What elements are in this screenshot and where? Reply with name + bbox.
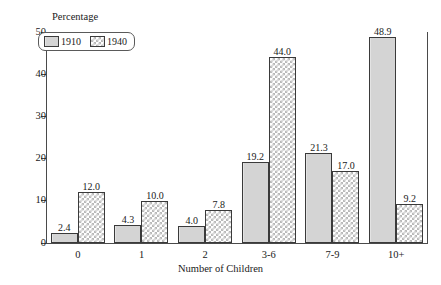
y-axis-tick: 40 — [0, 74, 46, 75]
y-axis-tick-label: 20 — [10, 153, 46, 163]
x-axis-label-10+: 10+ — [388, 249, 404, 260]
bar-value-label: 2.4 — [58, 223, 71, 233]
bar-group: 4.310.0 — [110, 32, 174, 243]
x-axis-label-1: 1 — [139, 249, 144, 260]
bar-chart-figure: Percentage 01020304050 1910 1940 2.412.0… — [0, 0, 441, 285]
bar-value-label: 17.0 — [337, 161, 355, 171]
x-axis-label-7-9: 7-9 — [326, 249, 340, 260]
bar-1940-10+: 9.2 — [396, 204, 423, 243]
bar-1940-0: 12.0 — [78, 192, 105, 243]
bar-value-label: 4.0 — [185, 216, 198, 226]
y-axis-tick: 30 — [0, 116, 46, 117]
bar-value-label: 21.3 — [310, 143, 328, 153]
bar-1940-2: 7.8 — [205, 210, 232, 243]
bar-value-label: 12.0 — [83, 182, 101, 192]
y-axis-tick-label: 10 — [10, 195, 46, 205]
bar-value-label: 9.2 — [403, 194, 416, 204]
bar-value-label: 44.0 — [274, 47, 292, 57]
bar-1910-3-6: 19.2 — [242, 162, 269, 243]
bar-group: 4.07.8 — [173, 32, 237, 243]
bar-group: 19.244.0 — [237, 32, 301, 243]
bar-group: 48.99.2 — [364, 32, 428, 243]
bar-1940-7-9: 17.0 — [332, 171, 359, 243]
y-axis-tick: 0 — [0, 243, 46, 244]
y-axis-tick: 50 — [0, 32, 46, 33]
bar-value-label: 19.2 — [247, 152, 265, 162]
y-axis-tick-label: 0 — [10, 238, 46, 248]
bar-1940-3-6: 44.0 — [269, 57, 296, 243]
y-axis-tick: 20 — [0, 158, 46, 159]
x-axis-line — [46, 243, 428, 244]
y-axis-tick: 10 — [0, 200, 46, 201]
x-axis-label-3-6: 3-6 — [262, 249, 276, 260]
bar-group: 21.317.0 — [301, 32, 365, 243]
y-axis-tick-label: 40 — [10, 69, 46, 79]
bar-value-label: 10.0 — [146, 191, 164, 201]
x-axis-label-0: 0 — [75, 249, 80, 260]
plot-area: 2.412.04.310.04.07.819.244.021.317.048.9… — [46, 32, 428, 243]
x-axis-label-2: 2 — [203, 249, 208, 260]
bar-1910-10+: 48.9 — [369, 37, 396, 243]
bar-1910-2: 4.0 — [178, 226, 205, 243]
bar-value-label: 7.8 — [212, 200, 225, 210]
bar-value-label: 48.9 — [374, 27, 392, 37]
bar-value-label: 4.3 — [122, 215, 135, 225]
y-axis-tick-label: 30 — [10, 111, 46, 121]
bar-1910-0: 2.4 — [51, 233, 78, 243]
bar-1940-1: 10.0 — [141, 201, 168, 243]
y-axis-title: Percentage — [52, 11, 98, 22]
bar-1910-7-9: 21.3 — [305, 153, 332, 243]
x-axis-title: Number of Children — [0, 263, 441, 274]
bar-group: 2.412.0 — [46, 32, 110, 243]
bar-1910-1: 4.3 — [114, 225, 141, 243]
